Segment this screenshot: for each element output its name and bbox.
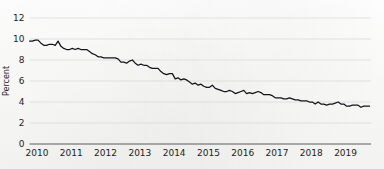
y-axis-tick-labels-group: 024681012 — [13, 13, 25, 149]
y-axis-tick-label: 10 — [13, 34, 25, 44]
y-axis-tick-label: 2 — [19, 118, 25, 128]
y-axis-title: Percent — [2, 66, 11, 96]
x-axis-tick-label: 2017 — [266, 148, 289, 158]
x-axis-tick-label: 2016 — [231, 148, 254, 158]
x-axis-tick-label: 2010 — [26, 148, 49, 158]
y-axis-tick-label: 8 — [19, 55, 25, 65]
x-axis-tick-labels-group: 2010201120122013201420152016201720182019 — [26, 148, 358, 158]
x-axis-tick-label: 2013 — [128, 148, 151, 158]
y-axis-tick-label: 4 — [19, 97, 25, 107]
unemployment-rate-series-line — [30, 40, 370, 107]
x-axis-tick-label: 2014 — [163, 148, 186, 158]
x-axis-tick-label: 2012 — [94, 148, 117, 158]
x-axis-tick-label: 2011 — [60, 148, 83, 158]
y-axis-tick-label: 6 — [19, 76, 25, 86]
x-axis-tick-label: 2015 — [197, 148, 220, 158]
y-axis-tick-label: 12 — [13, 13, 24, 23]
unemployment-rate-line-chart: 024681012 201020112012201320142015201620… — [0, 0, 384, 169]
chart-svg: 024681012 201020112012201320142015201620… — [0, 0, 384, 169]
x-axis-tick-label: 2019 — [334, 148, 357, 158]
x-axis-tick-label: 2018 — [300, 148, 323, 158]
y-axis-tick-label: 0 — [19, 139, 25, 149]
gridlines-group — [30, 18, 372, 123]
